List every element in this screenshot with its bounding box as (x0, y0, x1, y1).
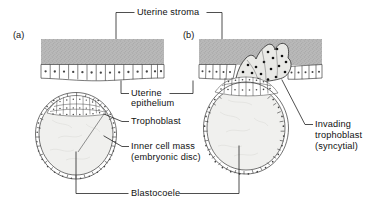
label-uterine-epithelium-line1: Uterine (131, 88, 162, 98)
label-uterine-stroma-text: Uterine stroma (137, 7, 200, 17)
label-blastocoele-text: Blastocoele (131, 188, 180, 198)
label-inner-cell-mass-line1: Inner cell mass (131, 141, 195, 151)
uterine-epithelium-a (41, 65, 164, 81)
label-trophoblast-text: Trophoblast (131, 116, 181, 126)
label-invading-line1: Invading (315, 119, 351, 129)
label-invading-line3: (syncytial) (315, 141, 358, 151)
label-inner-cell-mass-line2: (embryonic disc) (131, 152, 201, 162)
implantation-diagram: Uterine stroma (a) (0, 0, 387, 209)
panel-b-label: (b) (183, 30, 194, 40)
panel-a-label: (a) (13, 30, 24, 40)
label-uterine-epithelium-line2: epithelium (131, 98, 175, 108)
uterine-stroma-block-a (41, 39, 164, 65)
label-invading-line2: trophoblast (315, 130, 362, 140)
